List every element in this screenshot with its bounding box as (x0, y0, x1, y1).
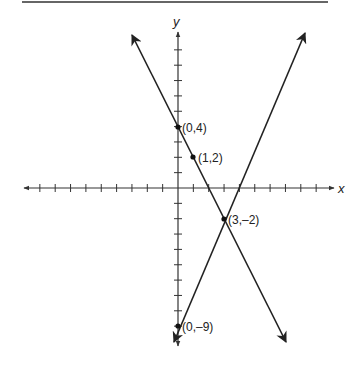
x-axis-label: x (337, 181, 345, 196)
point-1-2 (190, 154, 195, 159)
point-0-neg9 (175, 323, 180, 328)
y-axis (174, 32, 182, 346)
point-3-neg2 (221, 216, 226, 221)
label-point-0-4: (0,4) (182, 121, 207, 135)
coordinate-plane: x y (0,4) (1,2) (3,–2) (0,–9) (0, 0, 360, 378)
label-point-3-neg2: (3,–2) (228, 213, 259, 227)
point-0-4 (175, 124, 180, 129)
x-axis (24, 184, 334, 192)
label-point-1-2: (1,2) (198, 151, 223, 165)
y-axis-label: y (172, 14, 181, 29)
label-point-0-neg9: (0,–9) (182, 320, 213, 334)
